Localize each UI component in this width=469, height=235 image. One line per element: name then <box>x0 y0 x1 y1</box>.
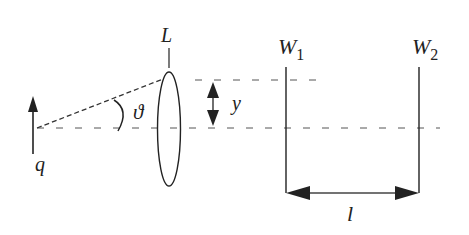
lens-icon <box>158 48 181 186</box>
wall-1-label: W1 <box>278 34 304 63</box>
angle-label: ϑ <box>133 100 145 124</box>
distance-label: l <box>347 201 353 226</box>
optics-diagram: q ϑ L y W1 <box>0 0 469 235</box>
separation-arrow-icon <box>286 186 419 200</box>
source-label: q <box>35 153 45 176</box>
height-arrow-icon <box>207 82 219 126</box>
height-label: y <box>230 92 241 115</box>
wall-2-label: W2 <box>412 34 438 63</box>
source-arrow-icon <box>28 96 38 154</box>
lens-label: L <box>160 24 172 46</box>
ray-line <box>37 79 163 128</box>
angle-arc-icon <box>114 100 123 131</box>
